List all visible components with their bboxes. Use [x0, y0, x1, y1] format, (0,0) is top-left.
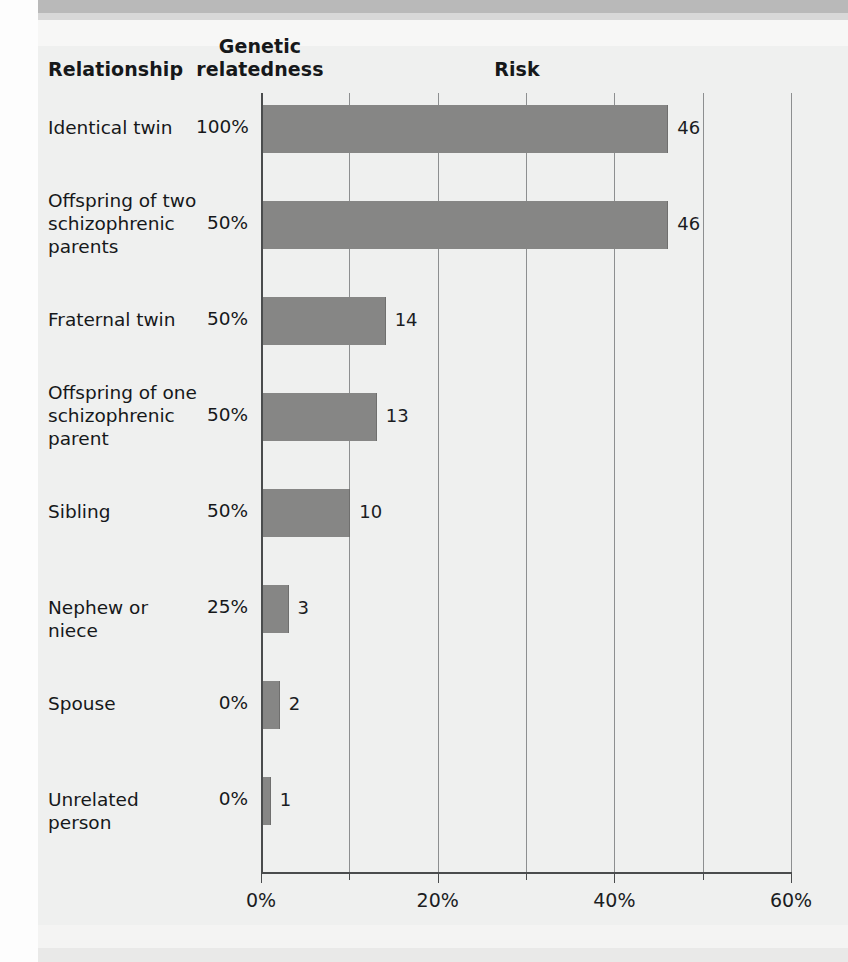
scan-band-top-2 [38, 13, 848, 20]
figure-page: Relationship Genetic relatedness Risk Id… [0, 0, 848, 962]
x-axis-label-40pct: 40% [593, 889, 635, 911]
row-label: Spouse [48, 692, 198, 715]
tick-40pct [614, 872, 615, 883]
x-axis-label-0pct: 0% [246, 889, 276, 911]
x-axis-label-60pct: 60% [770, 889, 812, 911]
scan-gutter-left [0, 0, 38, 962]
row-label-line: schizophrenic [48, 212, 198, 235]
gridline-50pct [703, 93, 704, 872]
bar[interactable] [263, 297, 386, 345]
bar-value-label: 2 [289, 693, 300, 714]
bar[interactable] [263, 585, 289, 633]
tick-minor-50pct [703, 872, 704, 880]
genetic-relatedness-value: 50% [196, 404, 248, 425]
row-label-line: Spouse [48, 692, 198, 715]
genetic-relatedness-value: 50% [196, 212, 248, 233]
bar[interactable] [263, 105, 668, 153]
paper-footer [38, 925, 848, 948]
row-label: Offspring of twoschizophrenicparents [48, 189, 198, 258]
gridline-60pct [791, 93, 792, 872]
paper-footer-2 [38, 948, 848, 962]
genetic-relatedness-value: 0% [196, 788, 248, 809]
genetic-relatedness-value: 50% [196, 308, 248, 329]
bar[interactable] [263, 681, 280, 729]
bar-value-label: 14 [395, 309, 418, 330]
bar[interactable] [263, 777, 271, 825]
paper-highlight [38, 20, 848, 46]
bar-value-label: 10 [359, 501, 382, 522]
bar-value-label: 3 [298, 597, 309, 618]
row-label-line: Identical twin [48, 116, 198, 139]
row-label-line: Offspring of two [48, 189, 198, 212]
row-label: Offspring of oneschizophrenicparent [48, 381, 198, 450]
genetic-relatedness-value: 50% [196, 500, 248, 521]
bar[interactable] [263, 489, 350, 537]
scan-band-top [38, 0, 848, 13]
tick-20pct [438, 872, 439, 883]
chart-title-risk: Risk [452, 58, 582, 80]
row-label-line: Unrelated person [48, 788, 198, 834]
row-label-line: Nephew or niece [48, 596, 198, 642]
tick-60pct [791, 872, 792, 883]
tick-0pct [261, 872, 262, 883]
row-label-line: Offspring of one [48, 381, 198, 404]
column-header-genetic-relatedness: Genetic relatedness [196, 35, 324, 81]
bar-chart-plot-area: 0%20%40%60% 4646141310321 [261, 93, 791, 872]
bar[interactable] [263, 393, 377, 441]
row-label: Fraternal twin [48, 308, 198, 331]
row-label-line: Sibling [48, 500, 198, 523]
genetic-relatedness-value: 100% [196, 116, 248, 137]
genetic-relatedness-value: 25% [196, 596, 248, 617]
column-header-relationship: Relationship [48, 58, 183, 80]
row-label: Nephew or niece [48, 596, 198, 642]
bar[interactable] [263, 201, 668, 249]
bar-value-label: 1 [280, 789, 291, 810]
row-label-line: parent [48, 427, 198, 450]
row-label-line: schizophrenic [48, 404, 198, 427]
row-label: Unrelated person [48, 788, 198, 834]
genetic-relatedness-value: 0% [196, 692, 248, 713]
x-axis-label-20pct: 20% [417, 889, 459, 911]
row-label: Sibling [48, 500, 198, 523]
row-label: Identical twin [48, 116, 198, 139]
bar-value-label: 46 [677, 117, 700, 138]
bar-value-label: 13 [386, 405, 409, 426]
row-label-line: Fraternal twin [48, 308, 198, 331]
row-label-line: parents [48, 235, 198, 258]
tick-minor-10pct [349, 872, 350, 880]
bar-value-label: 46 [677, 213, 700, 234]
tick-minor-30pct [526, 872, 527, 880]
